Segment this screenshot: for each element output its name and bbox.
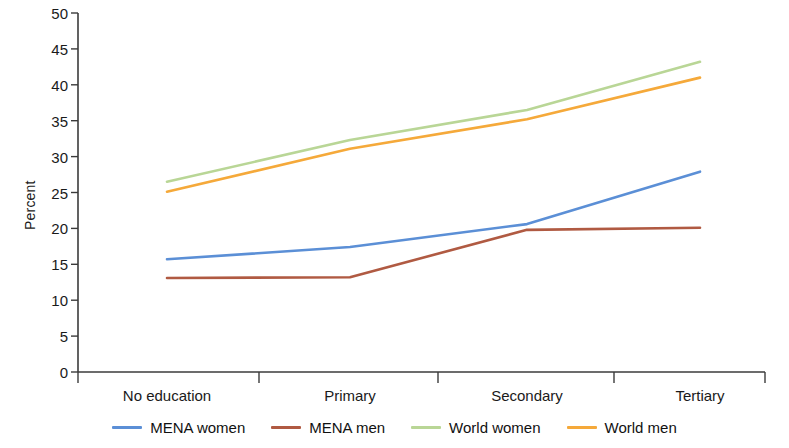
y-tick-label: 40 <box>30 78 68 93</box>
y-tick-label: 0 <box>30 365 68 380</box>
legend-item[interactable]: World men <box>567 419 677 436</box>
y-tick-label: 15 <box>30 257 68 272</box>
legend-label: World men <box>605 419 677 436</box>
legend-label: World women <box>449 419 540 436</box>
y-tick-label: 45 <box>30 42 68 57</box>
legend-color-swatch <box>271 426 301 429</box>
legend-color-swatch <box>567 426 597 429</box>
y-tick-label: 20 <box>30 221 68 236</box>
legend-item[interactable]: MENA men <box>271 419 385 436</box>
plot-area <box>0 0 789 448</box>
x-tick-label: Secondary <box>442 388 612 403</box>
series-line <box>167 172 700 260</box>
y-tick-label: 50 <box>30 6 68 21</box>
series-line <box>167 78 700 192</box>
series-line <box>167 62 700 182</box>
legend-color-swatch <box>411 426 441 429</box>
y-tick-label: 10 <box>30 293 68 308</box>
y-tick-label: 25 <box>30 186 68 201</box>
chart-legend: MENA womenMENA menWorld womenWorld men <box>0 419 789 436</box>
legend-item[interactable]: World women <box>411 419 540 436</box>
x-tick-label: Primary <box>265 388 435 403</box>
y-tick-label: 30 <box>30 150 68 165</box>
legend-color-swatch <box>112 426 142 429</box>
y-tick-label: 5 <box>30 329 68 344</box>
legend-label: MENA women <box>150 419 245 436</box>
legend-label: MENA men <box>309 419 385 436</box>
x-tick-label: No education <box>82 388 252 403</box>
line-chart: Percent 50454035302520151050 No educatio… <box>0 0 789 448</box>
y-tick-label: 35 <box>30 114 68 129</box>
legend-item[interactable]: MENA women <box>112 419 245 436</box>
x-tick-label: Tertiary <box>615 388 785 403</box>
